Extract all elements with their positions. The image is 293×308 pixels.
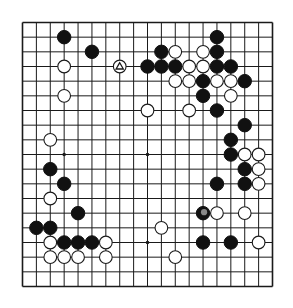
black-stone: [196, 236, 209, 249]
white-stone: [252, 148, 265, 161]
black-stone: [210, 177, 223, 190]
go-board: [0, 0, 293, 308]
white-stone: [169, 251, 182, 264]
black-stone: [155, 60, 168, 73]
black-stone: [224, 236, 237, 249]
star-point: [146, 153, 150, 157]
black-stone: [210, 104, 223, 117]
white-stone: [211, 75, 224, 88]
white-stone: [252, 163, 265, 176]
black-stone: [85, 236, 98, 249]
white-stone: [44, 192, 57, 205]
white-stone: [183, 75, 196, 88]
black-stone: [57, 30, 70, 43]
black-stone: [238, 118, 251, 131]
black-stone: [30, 221, 43, 234]
star-point: [146, 241, 150, 245]
black-stone: [210, 45, 223, 58]
white-stone: [238, 148, 251, 161]
black-stone: [44, 162, 57, 175]
white-stone: [58, 251, 71, 264]
white-stone: [197, 45, 210, 58]
white-stone: [44, 133, 57, 146]
white-stone: [252, 236, 265, 249]
black-stone: [57, 177, 70, 190]
white-stone: [224, 89, 237, 102]
black-stone: [169, 60, 182, 73]
star-point: [62, 153, 66, 157]
black-stone: [196, 89, 209, 102]
black-stone: [224, 133, 237, 146]
black-stone: [155, 45, 168, 58]
white-stone: [141, 104, 154, 117]
black-stone: [57, 236, 70, 249]
black-stone: [141, 60, 154, 73]
black-stone: [196, 74, 209, 87]
black-stone: [71, 236, 84, 249]
white-stone: [58, 60, 71, 73]
black-stone: [85, 45, 98, 58]
black-stone: [210, 60, 223, 73]
black-stone: [224, 148, 237, 161]
black-stone: [44, 221, 57, 234]
white-stone: [238, 207, 251, 220]
white-stone: [224, 75, 237, 88]
white-stone: [99, 236, 112, 249]
white-stone: [183, 104, 196, 117]
white-stone: [169, 45, 182, 58]
highlight-marker-icon: [201, 209, 207, 215]
black-stone: [238, 162, 251, 175]
white-stone: [44, 251, 57, 264]
white-stone: [44, 236, 57, 249]
white-stone: [72, 251, 85, 264]
white-stone: [197, 60, 210, 73]
black-stone: [224, 60, 237, 73]
white-stone: [211, 207, 224, 220]
black-stone: [210, 30, 223, 43]
white-stone: [169, 75, 182, 88]
black-stone: [238, 74, 251, 87]
white-stone: [183, 60, 196, 73]
white-stone: [155, 221, 168, 234]
white-stone: [99, 251, 112, 264]
black-stone: [71, 206, 84, 219]
white-stone: [58, 89, 71, 102]
white-stone: [252, 177, 265, 190]
black-stone: [238, 177, 251, 190]
